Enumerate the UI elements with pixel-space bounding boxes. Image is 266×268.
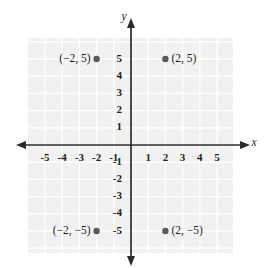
cartesian-plot: x y -5-4-3-2-112345 54321-1-2-3-4-5 (−2,… [0,0,266,268]
data-point-marker [162,56,168,62]
y-tick-label: 3 [117,86,123,98]
y-axis-label: y [120,10,127,23]
x-axis-left-arrow [16,141,26,149]
y-tick-label: 1 [117,120,123,132]
point-coordinate-label: (−2, 5) [59,52,91,65]
data-point-marker [162,228,168,234]
x-tick-label: 3 [180,151,186,163]
y-tick-label: 2 [117,103,123,115]
y-tick-label: -1 [113,155,122,167]
y-axis-bottom-arrow [127,256,135,266]
y-tick-label: -4 [113,206,123,218]
x-tick-label: 4 [197,151,203,163]
point-coordinate-label: (2, −5) [171,224,203,237]
coordinate-plane-figure: x y -5-4-3-2-112345 54321-1-2-3-4-5 (−2,… [0,0,266,268]
x-axis-right-arrow [240,141,250,149]
point-coordinate-label: (−2, −5) [53,224,91,237]
y-tick-label: -2 [113,172,123,184]
x-tick-label: 5 [214,151,220,163]
data-point-marker [93,56,99,62]
y-tick-label: -5 [113,224,123,236]
x-tick-label: -2 [92,151,102,163]
x-tick-label: -5 [40,151,50,163]
data-point-marker [93,228,99,234]
x-axis-label: x [250,136,257,148]
x-tick-label: -4 [58,151,68,163]
x-tick-label: 1 [145,151,151,163]
y-axis-top-arrow [127,18,135,28]
x-tick-label: -3 [75,151,85,163]
point-coordinate-label: (2, 5) [171,52,196,65]
x-tick-label: 2 [163,151,169,163]
y-tick-label: 4 [117,69,123,81]
y-tick-label: -3 [113,189,123,201]
y-tick-label: 5 [117,52,123,64]
